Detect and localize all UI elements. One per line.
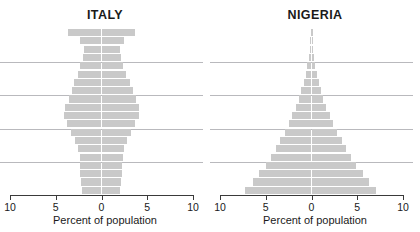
x-axis-tick-label: 10 — [397, 201, 409, 213]
pyramid-row — [10, 54, 193, 62]
panel-title-italy: ITALY — [0, 8, 210, 22]
panel-title-nigeria: NIGERIA — [210, 8, 420, 22]
bar-female — [102, 54, 121, 61]
bar-male — [75, 137, 102, 144]
pyramid-row — [220, 137, 403, 145]
bar-female — [102, 137, 128, 144]
pyramid-row — [10, 46, 193, 54]
bar-female — [102, 129, 131, 136]
bar-female — [102, 154, 123, 161]
pyramid-row — [220, 145, 403, 153]
bar-female — [102, 178, 121, 185]
bar-male — [80, 162, 101, 169]
bar-female — [312, 120, 334, 127]
x-axis-tick — [147, 195, 148, 200]
x-axis-tick-label: 10 — [187, 201, 199, 213]
pyramid-row — [220, 95, 403, 103]
pyramid-row — [10, 87, 193, 95]
pyramid-row — [10, 145, 193, 153]
pyramid-row — [220, 154, 403, 162]
bar-female — [312, 46, 314, 53]
x-axis-tick-label: 5 — [53, 201, 59, 213]
bar-female — [102, 95, 137, 102]
pyramid-row — [220, 62, 403, 70]
bar-female — [102, 71, 127, 78]
bar-female — [312, 37, 313, 44]
bar-female — [312, 71, 317, 78]
bar-female — [312, 187, 377, 194]
bar-male — [301, 87, 311, 94]
pyramid-row — [10, 71, 193, 79]
bar-female — [312, 95, 324, 102]
bar-female — [312, 178, 370, 185]
bar-female — [312, 104, 327, 111]
bar-female — [312, 137, 342, 144]
bar-male — [69, 95, 102, 102]
x-axis-tick-label: 10 — [4, 201, 16, 213]
x-axis-tick — [102, 195, 103, 200]
bar-female — [312, 162, 357, 169]
bar-female — [102, 162, 122, 169]
plot-area-nigeria — [220, 29, 403, 195]
bar-female — [312, 87, 321, 94]
panel-italy: ITALY 1050510 Percent of population — [0, 0, 210, 232]
pyramid-row — [10, 187, 193, 195]
bar-female — [312, 79, 319, 86]
bar-male — [68, 29, 102, 36]
bar-male — [285, 129, 312, 136]
bar-male — [80, 154, 102, 161]
bar-female — [102, 37, 125, 44]
bar-male — [292, 112, 311, 119]
bar-female — [102, 112, 140, 119]
pyramid-row — [220, 71, 403, 79]
pyramid-row — [10, 178, 193, 186]
bar-female — [102, 79, 130, 86]
bar-male — [81, 178, 101, 185]
pyramid-row — [10, 170, 193, 178]
pyramid-row — [10, 95, 193, 103]
pyramid-row — [220, 112, 403, 120]
pyramid-row — [10, 29, 193, 37]
bar-male — [82, 187, 101, 194]
bar-female — [102, 120, 136, 127]
bar-female — [312, 145, 347, 152]
pyramid-row — [10, 154, 193, 162]
x-axis-tick — [220, 195, 221, 200]
pyramid-row — [220, 54, 403, 62]
bar-male — [80, 37, 102, 44]
bar-female — [102, 46, 120, 53]
x-axis-tick-label: 0 — [99, 201, 105, 213]
x-axis-tick-label: 5 — [144, 201, 150, 213]
bar-male — [304, 79, 312, 86]
bar-female — [102, 170, 122, 177]
bar-female — [312, 29, 313, 36]
x-axis-tick-label: 0 — [309, 201, 315, 213]
x-axis-tick-label: 5 — [354, 201, 360, 213]
bar-male — [259, 170, 311, 177]
bar-male — [71, 129, 101, 136]
bar-female — [312, 154, 351, 161]
pyramid-row — [10, 112, 193, 120]
pyramid-row — [220, 178, 403, 186]
pyramid-row — [10, 104, 193, 112]
x-axis-tick — [56, 195, 57, 200]
bar-male — [80, 62, 101, 69]
x-axis-tick-label: 10 — [214, 201, 226, 213]
bar-male — [84, 46, 101, 53]
bar-male — [65, 104, 102, 111]
pyramid-row — [220, 29, 403, 37]
bar-male — [253, 178, 312, 185]
bar-female — [102, 62, 124, 69]
bar-female — [102, 104, 140, 111]
x-axis-title-italy: Percent of population — [0, 214, 210, 226]
bar-female — [312, 112, 330, 119]
bar-female — [102, 145, 125, 152]
pyramid-row — [10, 162, 193, 170]
pyramid-row — [220, 162, 403, 170]
bar-male — [64, 112, 102, 119]
population-pyramid-figure: ITALY 1050510 Percent of population NIGE… — [0, 0, 420, 232]
pyramid-row — [220, 37, 403, 45]
bar-female — [312, 170, 363, 177]
pyramid-row — [220, 170, 403, 178]
bar-male — [296, 104, 312, 111]
